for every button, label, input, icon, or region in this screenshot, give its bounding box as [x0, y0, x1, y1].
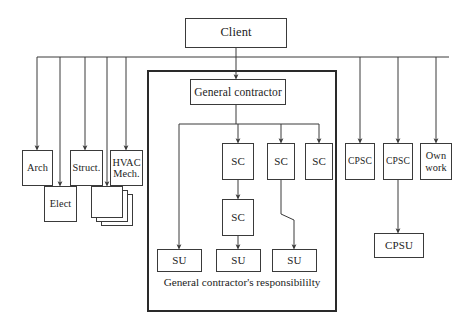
node-cpsc-1-label: CPSC	[348, 156, 372, 166]
node-cpsc-2-label: CPSC	[386, 156, 410, 166]
node-hvac-mech[interactable]: HVAC Mech.	[110, 150, 143, 186]
node-struct[interactable]: Struct.	[70, 150, 103, 186]
node-own-work-label: Own work	[421, 150, 451, 172]
node-arch-label: Arch	[27, 162, 48, 173]
node-sc-1b[interactable]: SC	[222, 199, 254, 236]
node-arch[interactable]: Arch	[22, 150, 53, 186]
node-elect-label: Elect	[50, 198, 72, 209]
node-hvac-mech-label: HVAC Mech.	[111, 157, 142, 179]
node-su-2-label: SU	[231, 255, 245, 267]
node-elect[interactable]: Elect	[44, 186, 77, 222]
node-sc-1-label: SC	[231, 156, 245, 168]
node-su-1-label: SU	[172, 255, 186, 267]
node-client[interactable]: Client	[185, 18, 287, 48]
node-sc-2-label: SC	[274, 156, 288, 168]
organisation-chart: General contractor's responsibililty Cli…	[0, 0, 464, 330]
node-sc-2[interactable]: SC	[267, 143, 295, 180]
node-su-3[interactable]: SU	[272, 249, 317, 272]
node-su-1[interactable]: SU	[157, 249, 202, 272]
node-cpsc-2[interactable]: CPSC	[383, 143, 413, 180]
node-sc-3[interactable]: SC	[305, 143, 333, 180]
node-su-3-label: SU	[287, 255, 301, 267]
node-cpsu-label: CPSU	[385, 240, 413, 252]
node-own-work[interactable]: Own work	[420, 143, 452, 180]
node-su-2[interactable]: SU	[216, 249, 261, 272]
node-sc-1[interactable]: SC	[222, 143, 254, 180]
node-sc-1b-label: SC	[231, 212, 245, 224]
node-client-label: Client	[220, 26, 251, 40]
node-sc-3-label: SC	[312, 156, 326, 168]
node-cpsu[interactable]: CPSU	[374, 233, 424, 258]
region-caption: General contractor's responsibililty	[147, 276, 337, 288]
node-general-contractor-label: General contractor	[194, 86, 282, 98]
node-struct-label: Struct.	[73, 162, 101, 173]
node-cpsc-1[interactable]: CPSC	[345, 143, 375, 180]
node-general-contractor[interactable]: General contractor	[190, 79, 286, 105]
node-stack-front[interactable]	[91, 186, 123, 218]
